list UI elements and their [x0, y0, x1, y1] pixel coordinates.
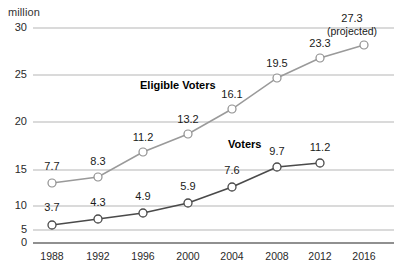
x-tick-2008: 2008: [254, 250, 300, 262]
data-point-eligible-2000: [184, 130, 192, 138]
data-point-eligible-1992: [94, 173, 102, 181]
x-tick-1992: 1992: [75, 250, 121, 262]
y-tick-10: 10: [5, 199, 27, 211]
data-point-eligible-2016: [360, 41, 368, 49]
data-point-voters-2008: [273, 163, 281, 171]
y-tick-25: 25: [5, 68, 27, 80]
series-label-eligible-voters: Eligible Voters: [140, 79, 216, 91]
x-tick-2012: 2012: [297, 250, 343, 262]
data-point-eligible-2012: [316, 54, 324, 62]
y-tick-5: 5: [5, 223, 27, 235]
value-label-eligible-2008: 19.5: [257, 57, 297, 69]
value-label-eligible-1992: 8.3: [78, 155, 118, 167]
value-label-voters-2000: 5.9: [168, 180, 208, 192]
y-tick-20: 20: [5, 115, 27, 127]
y-tick-0: 0: [5, 236, 27, 248]
data-point-eligible-1996: [139, 148, 147, 156]
data-point-eligible-2008: [273, 74, 281, 82]
data-point-voters-2012: [316, 159, 324, 167]
y-axis-unit-label: million: [8, 6, 40, 18]
value-label-voters-2004: 7.6: [212, 164, 252, 176]
value-label-voters-1988: 3.7: [32, 201, 72, 213]
chart-plot-area: [0, 0, 401, 272]
value-label-voters-2008: 9.7: [257, 145, 297, 157]
x-tick-1988: 1988: [29, 250, 75, 262]
value-label-eligible-1996: 11.2: [123, 131, 163, 143]
x-tick-2000: 2000: [165, 250, 211, 262]
x-tick-2004: 2004: [209, 250, 255, 262]
x-tick-1996: 1996: [120, 250, 166, 262]
series-line-voters: [52, 163, 320, 225]
chart-container: million 30 25 20 15 10 5 0 1988 1992 199…: [0, 0, 401, 272]
value-label-voters-1992: 4.3: [78, 196, 118, 208]
data-point-voters-1996: [139, 209, 147, 217]
y-tick-30: 30: [5, 21, 27, 33]
value-label-eligible-2004: 16.1: [212, 88, 252, 100]
value-label-eligible-2000: 13.2: [168, 113, 208, 125]
y-tick-15: 15: [5, 163, 27, 175]
series-label-voters: Voters: [228, 138, 261, 150]
data-point-voters-2004: [228, 183, 236, 191]
value-label-eligible-2012: 23.3: [300, 37, 340, 49]
value-label-voters-2012: 11.2: [300, 141, 340, 153]
value-label-eligible-2016: 27.3: [332, 12, 372, 24]
data-point-eligible-2004: [228, 105, 236, 113]
data-point-voters-1988: [48, 221, 56, 229]
projected-annotation: (projected): [317, 25, 387, 37]
data-point-voters-2000: [184, 199, 192, 207]
data-point-eligible-1988: [48, 179, 56, 187]
value-label-voters-1996: 4.9: [123, 190, 163, 202]
data-point-voters-1992: [94, 215, 102, 223]
value-label-eligible-1988: 7.7: [32, 160, 72, 172]
x-tick-2016: 2016: [341, 250, 387, 262]
